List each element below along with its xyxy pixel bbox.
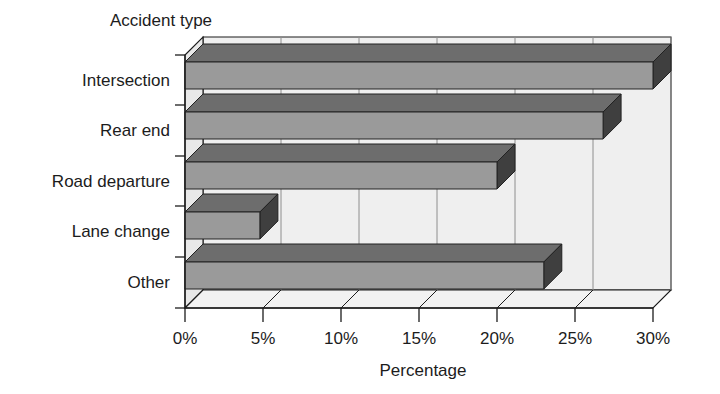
x-axis-title: Percentage (380, 361, 467, 380)
category-label-intersection: Intersection (82, 71, 170, 90)
bar-other-face (185, 262, 544, 289)
chart-container: Accident type Intersection Rear end Road… (0, 0, 720, 394)
x-tick-label-0: 0% (173, 329, 198, 348)
bar-rear-end-face (185, 112, 603, 139)
category-label-road-departure: Road departure (52, 172, 170, 191)
category-label-lane-change: Lane change (72, 222, 170, 241)
x-tick-label-25: 25% (558, 329, 592, 348)
bar-road-departure-face (185, 162, 497, 189)
bar-other (185, 244, 562, 289)
x-tick-label-15: 15% (402, 329, 436, 348)
bar-lane-change (185, 194, 278, 239)
x-tick-label-30: 30% (636, 329, 670, 348)
bar-intersection (185, 44, 671, 89)
bar-intersection-top (185, 44, 671, 62)
bar-intersection-face (185, 62, 653, 89)
accident-type-bar-chart: Accident type Intersection Rear end Road… (0, 0, 720, 394)
bar-road-departure-top (185, 144, 515, 162)
bar-lane-change-face (185, 212, 260, 239)
category-label-other: Other (127, 273, 170, 292)
x-tick-label-20: 20% (480, 329, 514, 348)
bar-other-top (185, 244, 562, 262)
bar-rear-end-top (185, 94, 621, 112)
x-tick-label-5: 5% (251, 329, 276, 348)
category-label-rear-end: Rear end (100, 121, 170, 140)
x-tick-label-10: 10% (324, 329, 358, 348)
y-axis-title: Accident type (110, 11, 212, 30)
bar-road-departure (185, 144, 515, 189)
bar-rear-end (185, 94, 621, 139)
